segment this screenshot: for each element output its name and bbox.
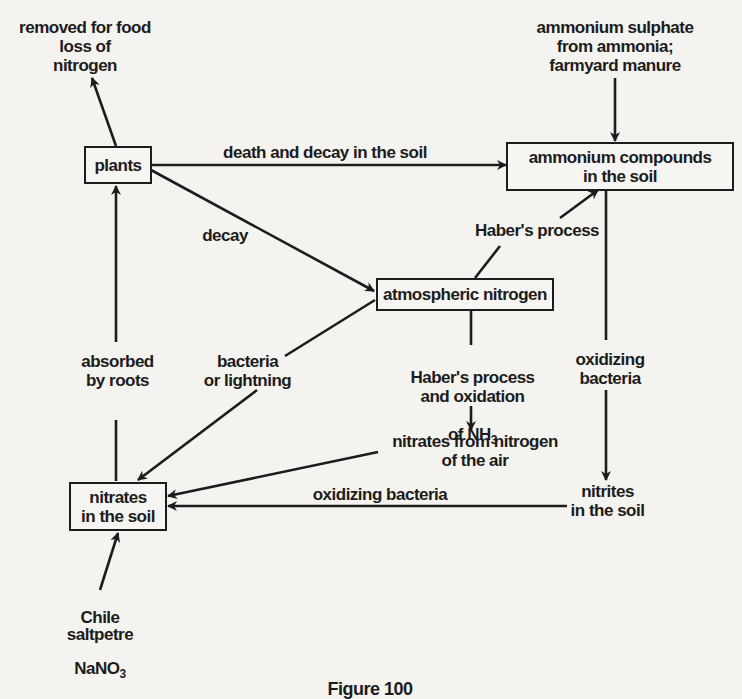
edge-label-bacteria-or-lightning: bacteria or lightning bbox=[195, 352, 300, 390]
arrow-chile-saltpetre bbox=[100, 533, 118, 590]
node-atmospheric-nitrogen-label: atmospheric nitrogen bbox=[383, 285, 547, 304]
node-nitrites-in-soil: nitrites in the soil bbox=[565, 482, 650, 520]
chile-saltpetre-name: Chile saltpetre bbox=[67, 608, 133, 644]
node-atmospheric-nitrogen: atmospheric nitrogen bbox=[376, 278, 554, 311]
edge-label-oxidizing-bacteria-horizontal: oxidizing bacteria bbox=[300, 485, 460, 504]
node-ammonium-compounds: ammonium compounds in the soil bbox=[506, 142, 734, 191]
arrow-habers-process-upper bbox=[560, 190, 598, 218]
line-bacteria-lightning-upper bbox=[285, 300, 375, 356]
node-plants: plants bbox=[84, 146, 152, 184]
edge-label-habers-process: Haber's process bbox=[462, 221, 612, 240]
node-nitrates-in-soil: nitrates in the soil bbox=[69, 482, 167, 531]
figure-caption: Figure 100 bbox=[300, 680, 440, 699]
arrow-plants-to-removed-for-food bbox=[92, 78, 116, 146]
node-ammonium-compounds-label: ammonium compounds in the soil bbox=[529, 148, 712, 186]
edge-label-haber-oxidation: Haber's process and oxidation of NH3 bbox=[400, 349, 545, 444]
node-ammonium-sulphate: ammonium sulphate from ammonia; farmyard… bbox=[520, 18, 710, 75]
line-habers-process-lower bbox=[475, 246, 500, 278]
arrow-bacteria-lightning-lower bbox=[138, 390, 257, 480]
node-nitrates-in-soil-label: nitrates in the soil bbox=[81, 488, 155, 526]
node-plants-label: plants bbox=[94, 156, 141, 175]
chile-saltpetre-formula: NaNO3 bbox=[74, 659, 125, 678]
node-chile-saltpetre: Chile saltpetre NaNO3 bbox=[60, 592, 140, 677]
edge-label-absorbed-by-roots: absorbed by roots bbox=[75, 352, 160, 390]
edge-label-oxidizing-bacteria-vertical: oxidizing bacteria bbox=[570, 350, 650, 388]
node-removed-for-food: removed for food loss of nitrogen bbox=[10, 18, 160, 75]
arrow-decay bbox=[151, 170, 374, 291]
edge-label-death-and-decay: death and decay in the soil bbox=[205, 143, 445, 162]
edge-label-decay: decay bbox=[195, 226, 255, 245]
